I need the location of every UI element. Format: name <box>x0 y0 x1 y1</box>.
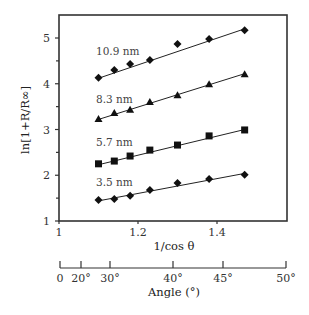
diamond-marker <box>95 196 103 204</box>
plot-frame <box>59 15 287 221</box>
diamond-marker <box>126 192 134 200</box>
triangle-marker <box>126 106 134 113</box>
x-tick-label: 1.2 <box>129 226 147 239</box>
triangle-marker <box>174 91 182 98</box>
series-label: 8.3 nm <box>96 93 133 105</box>
diamond-marker <box>146 56 154 64</box>
x-axis-title: 1/cos θ <box>153 239 194 253</box>
x-tick-label: 1 <box>56 226 63 239</box>
y-axis-title: ln[1+R/R∞] <box>18 86 32 154</box>
series-label: 5.7 nm <box>96 136 133 148</box>
y-tick-label: 1 <box>43 215 50 228</box>
x-tick-label: 1.4 <box>208 226 226 239</box>
diamond-marker <box>241 171 249 179</box>
chart: 1234511.21.4ln[1+R/R∞]1/cos θ10.9 nm8.3 … <box>0 0 309 315</box>
series-3-5-nm: 3.5 nm <box>95 171 249 204</box>
square-marker <box>127 153 134 160</box>
square-marker <box>146 147 153 154</box>
angle-tick-label: 30° <box>100 272 120 285</box>
y-tick-label: 4 <box>43 78 50 91</box>
series-label: 3.5 nm <box>96 176 133 188</box>
series-8-3-nm: 8.3 nm <box>95 70 249 122</box>
square-marker <box>206 132 213 139</box>
y-tick-label: 2 <box>43 169 50 182</box>
angle-tick-label: 0 <box>57 272 64 285</box>
series-10-9-nm: 10.9 nm <box>95 26 249 82</box>
angle-axis-title: Angle (°) <box>147 285 200 299</box>
angle-tick-label: 45° <box>213 272 233 285</box>
diamond-marker <box>205 175 213 183</box>
angle-tick-label: 50° <box>276 272 296 285</box>
square-marker <box>241 126 248 133</box>
angle-tick-label: 20° <box>71 272 91 285</box>
series-label: 10.9 nm <box>96 45 139 57</box>
plot-area: 1234511.21.4ln[1+R/R∞]1/cos θ10.9 nm8.3 … <box>18 15 296 299</box>
diamond-marker <box>174 40 182 48</box>
square-marker <box>111 158 118 165</box>
square-marker <box>174 142 181 149</box>
diamond-marker <box>146 186 154 194</box>
triangle-marker <box>146 98 154 105</box>
diamond-marker <box>110 195 118 203</box>
diamond-marker <box>110 66 118 74</box>
angle-axis: 020°30°40°45°50°Angle (°) <box>57 261 296 299</box>
triangle-marker <box>110 109 118 116</box>
diamond-marker <box>241 26 249 34</box>
series-5-7-nm: 5.7 nm <box>95 126 248 167</box>
square-marker <box>95 160 102 167</box>
y-tick-label: 3 <box>43 124 50 137</box>
triangle-marker <box>241 70 249 77</box>
angle-tick-label: 40° <box>163 272 183 285</box>
y-tick-label: 5 <box>43 32 50 45</box>
diamond-marker <box>95 74 103 82</box>
